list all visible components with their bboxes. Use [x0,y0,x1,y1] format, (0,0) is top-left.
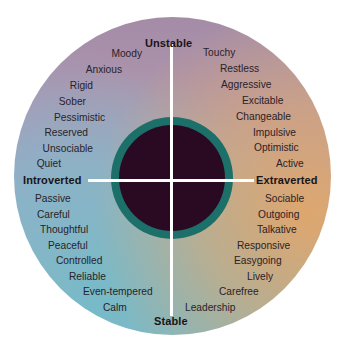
trait-unsociable: Unsociable [43,143,93,155]
axis-label-unstable: Unstable [145,37,192,49]
trait-peaceful: Peaceful [48,240,88,252]
trait-excitable: Excitable [242,95,283,107]
trait-sober: Sober [59,96,86,108]
axis-label-introverted: Introverted [23,174,82,186]
trait-carefree: Carefree [219,286,259,298]
trait-reserved: Reserved [44,127,88,139]
trait-talkative: Talkative [257,224,297,236]
trait-impulsive: Impulsive [253,127,296,139]
trait-thoughtful: Thoughtful [40,224,88,236]
trait-touchy: Touchy [203,47,235,59]
trait-controlled: Controlled [56,255,102,267]
trait-easygoing: Easygoing [234,255,282,267]
trait-careful: Careful [37,209,70,221]
trait-lively: Lively [247,271,273,283]
trait-anxious: Anxious [86,64,122,76]
trait-leadership: Leadership [185,302,235,314]
trait-changeable: Changeable [236,111,291,123]
trait-passive: Passive [35,193,71,205]
trait-rigid: Rigid [70,80,93,92]
axis-label-stable: Stable [154,315,188,327]
trait-active: Active [276,158,304,170]
trait-responsive: Responsive [237,240,290,252]
trait-outgoing: Outgoing [258,209,299,221]
axis-label-extraverted: Extraverted [256,174,318,186]
trait-aggressive: Aggressive [221,79,271,91]
trait-even-tempered: Even-tempered [83,286,153,298]
trait-restless: Restless [220,63,259,75]
trait-calm: Calm [103,302,127,314]
trait-moody: Moody [111,48,142,60]
trait-pessimistic: Pessimistic [54,112,105,124]
trait-sociable: Sociable [265,193,304,205]
trait-reliable: Reliable [69,271,106,283]
trait-quiet: Quiet [37,158,61,170]
extraversion-axis-line [88,179,254,182]
trait-optimistic: Optimistic [254,142,299,154]
